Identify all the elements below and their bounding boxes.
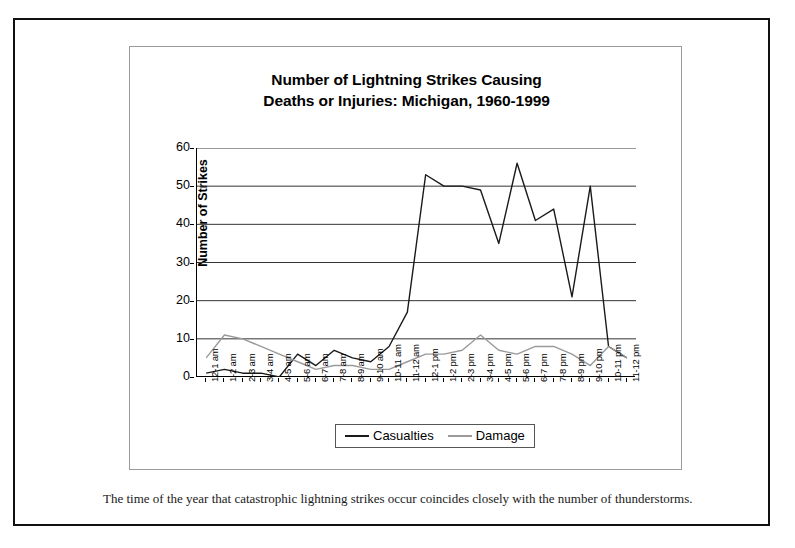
x-axis-tick-mark [608,378,609,382]
chart-legend: CasualtiesDamage [335,424,535,448]
x-axis-tick-mark [534,378,535,382]
x-axis-tick-label: 7-8 am [337,354,348,382]
x-axis-tick-mark [553,378,554,382]
x-axis-tick-label: 8-9 pm [575,354,586,382]
legend-item: Damage [448,428,525,443]
y-axis-tick-label: 50 [156,179,190,191]
x-axis-tick-mark [370,378,371,382]
x-axis-tick-label: 2-3 pm [465,354,476,382]
x-axis-tick-label: 7-8 pm [557,354,568,382]
page-root: Number of Lightning Strikes Causing Deat… [0,0,795,548]
legend-label: Damage [476,428,525,443]
x-axis-tick-label: 12-1 am [209,349,220,382]
y-axis-tick-mark [190,339,194,340]
plot-wrapper: Number of Strikes 0102030405060 12-1 am1… [196,148,635,377]
y-axis-tick-label: 40 [156,217,190,229]
y-axis-tick-mark [190,301,194,302]
chart-title-line-2: Deaths or Injuries: Michigan, 1960-1999 [130,90,683,111]
legend-item: Casualties [345,428,434,443]
x-axis-tick-label: 12-1 pm [429,349,440,382]
x-axis-tick-mark [480,378,481,382]
legend-line-swatch [448,435,472,437]
x-axis-tick-label: 1-2 am [227,354,238,382]
x-axis-tick-mark [425,378,426,382]
x-axis-tick-label: 4-5 pm [502,354,513,382]
legend-line-swatch [345,435,369,437]
x-axis-tick-mark [443,378,444,382]
x-axis-tick-label: 3-4 pm [484,354,495,382]
x-axis-tick-mark [626,378,627,382]
x-axis-tick-label: 10-11 am [392,344,403,382]
x-axis-tick-label: 3-4 am [264,354,275,382]
y-axis-tick-labels: 0102030405060 [156,148,190,377]
x-axis-tick-label: 9-10 pm [593,349,604,382]
x-axis-tick-mark [498,378,499,382]
x-axis-tick-mark [297,378,298,382]
x-axis-tick-label: 2-3 am [246,354,257,382]
x-axis-tick-mark [516,378,517,382]
x-axis-tick-mark [260,378,261,382]
x-axis-tick-mark [333,378,334,382]
x-axis-tick-mark [571,378,572,382]
x-axis-tick-label: 6-7 pm [538,354,549,382]
y-axis-tick-mark [190,186,194,187]
x-axis-tick-label: 11-12 pm [630,344,641,382]
x-axis-tick-mark [315,378,316,382]
y-axis-tick-mark [190,377,194,378]
y-axis-tick-mark [190,224,194,225]
document-frame: Number of Lightning Strikes Causing Deat… [13,18,770,526]
x-axis-tick-label: 5-6 am [301,354,312,382]
x-axis-tick-label: 5-6 pm [520,354,531,382]
y-axis-tick-label: 10 [156,332,190,344]
x-axis-tick-mark [406,378,407,382]
plot-area [196,148,635,377]
x-axis-tick-label: 8-9 am [355,354,366,382]
chart-plot-svg [197,148,636,377]
y-axis-tick-label: 60 [156,141,190,153]
x-axis-tick-label: 11-12 am [410,344,421,382]
x-axis-tick-label: 6-7 am [319,354,330,382]
y-axis-tick-label: 20 [156,294,190,306]
x-axis-tick-mark [278,378,279,382]
chart-title: Number of Lightning Strikes Causing Deat… [130,69,683,111]
y-axis-tick-mark [190,148,194,149]
figure-caption: The time of the year that catastrophic l… [77,490,712,508]
x-axis-tick-mark [223,378,224,382]
x-axis-tick-mark [242,378,243,382]
y-axis-tick-label: 0 [156,370,190,382]
x-axis-tick-mark [388,378,389,382]
chart-title-line-1: Number of Lightning Strikes Causing [130,69,683,90]
x-axis-tick-mark [589,378,590,382]
x-axis-tick-label: 9-10 am [374,349,385,382]
chart-container: Number of Lightning Strikes Causing Deat… [129,46,682,470]
x-axis-tick-mark [351,378,352,382]
y-axis-tick-label: 30 [156,256,190,268]
x-axis-tick-label: 1-2 pm [447,354,458,382]
x-axis-tick-label: 4-5 am [282,354,293,382]
x-axis-tick-mark [461,378,462,382]
legend-label: Casualties [373,428,434,443]
x-axis-tick-mark [205,378,206,382]
y-axis-tick-mark [190,263,194,264]
x-axis-tick-label: 10-11 pm [612,344,623,382]
